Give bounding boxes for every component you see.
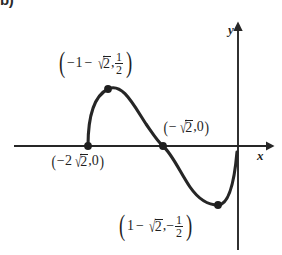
math-figure: b) y x (−1−√2,12) (−2√2,0) (−√2,0): [0, 0, 282, 255]
label-middle-root-body: −√2,0: [169, 120, 204, 135]
radicand: 2: [185, 120, 193, 135]
label-minimum-point: (1−√2,−12): [117, 214, 194, 239]
minus-sign: −: [84, 55, 92, 70]
minus-sign: −: [57, 153, 65, 168]
numeral-one: 1: [75, 55, 82, 70]
paren-close: ): [125, 53, 131, 72]
paren-open: (: [119, 216, 125, 235]
fraction-denominator: 2: [115, 63, 123, 76]
fraction-numerator: 1: [115, 51, 123, 63]
point-dot-left-root: [84, 142, 92, 150]
fraction-one-half: 12: [115, 51, 123, 76]
fraction-one-half: 12: [175, 214, 183, 239]
minus-sign: −: [166, 218, 174, 233]
label-left-root-body: −2√2,0: [57, 154, 99, 169]
paren-close: ): [204, 121, 209, 135]
point-dot-minimum: [214, 201, 222, 209]
minus-sign: −: [136, 218, 144, 233]
comma-zero: ,0: [88, 153, 99, 168]
paren-open: (: [164, 121, 169, 135]
radical-sqrt2: √2: [96, 56, 111, 71]
point-dot-maximum: [104, 85, 112, 93]
paren-open: (: [52, 155, 57, 169]
radicand: 2: [80, 154, 88, 169]
y-axis-label: y: [228, 22, 234, 38]
label-left-root-point: (−2√2,0): [51, 154, 104, 169]
radicand: 2: [103, 56, 111, 71]
x-axis-label: x: [257, 148, 264, 164]
paren-close: ): [99, 155, 104, 169]
comma: ,: [111, 55, 115, 70]
numeral-one: 1: [127, 218, 134, 233]
fraction-numerator: 1: [175, 214, 183, 226]
minus-sign: −: [169, 119, 177, 134]
radical-sqrt2: √2: [147, 219, 162, 234]
label-minimum-body: 1−√2,−12: [127, 214, 184, 239]
radicand: 2: [155, 219, 163, 234]
x-axis-arrowhead: [266, 142, 275, 151]
x-axis: [14, 142, 275, 151]
label-middle-root-point: (−√2,0): [163, 120, 209, 135]
y-axis-arrowhead: [233, 22, 242, 32]
label-maximum-body: −1−√2,12: [67, 51, 124, 76]
radical-sqrt2: √2: [178, 120, 193, 135]
comma-zero: ,0: [193, 119, 204, 134]
coefficient-two: 2: [65, 153, 72, 168]
paren-close: ): [185, 216, 191, 235]
radical-sqrt2: √2: [73, 154, 88, 169]
point-dot-middle-root: [159, 142, 167, 150]
paren-open: (: [59, 53, 65, 72]
label-maximum-point: (−1−√2,12): [57, 51, 134, 76]
y-axis: [233, 22, 242, 251]
fraction-denominator: 2: [175, 226, 183, 239]
